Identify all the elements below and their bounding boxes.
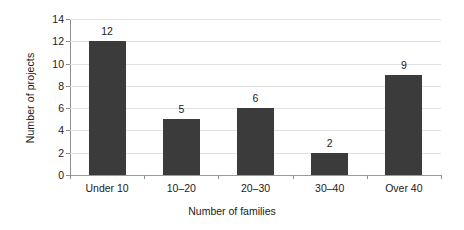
bar xyxy=(89,41,126,175)
x-axis-title: Number of families xyxy=(0,205,464,217)
x-axis-tick-mark xyxy=(218,175,219,179)
y-axis-tick-label: 8 xyxy=(40,80,64,91)
y-axis-tick-mark xyxy=(66,130,70,131)
y-axis-tick-label: 4 xyxy=(40,125,64,136)
y-axis-tick-mark xyxy=(66,41,70,42)
x-axis-tick-mark xyxy=(441,175,442,179)
y-axis-tick-mark xyxy=(66,153,70,154)
y-axis-tick-labels: 02468101214 xyxy=(40,12,64,176)
y-axis-tick-mark xyxy=(66,108,70,109)
bar xyxy=(237,108,274,175)
bar-value-label: 5 xyxy=(151,103,211,115)
x-axis-tick-mark xyxy=(144,175,145,179)
bar-value-label: 12 xyxy=(77,25,137,37)
y-axis-title: Number of projects xyxy=(22,10,38,186)
bar-chart: Number of projects 02468101214 Under 101… xyxy=(0,0,464,230)
bar xyxy=(385,75,422,175)
bar xyxy=(163,119,200,175)
y-axis-tick-label: 2 xyxy=(40,147,64,158)
x-axis-tick-mark xyxy=(293,175,294,179)
gridline xyxy=(70,19,441,20)
y-axis-tick-label: 6 xyxy=(40,103,64,114)
y-axis-tick-mark xyxy=(66,86,70,87)
gridline xyxy=(70,175,441,176)
y-axis-tick-label: 10 xyxy=(40,58,64,69)
x-axis-tick-mark xyxy=(367,175,368,179)
bar-value-label: 6 xyxy=(226,92,286,104)
bar-value-label: 9 xyxy=(374,59,434,71)
x-axis-tick-label: Over 40 xyxy=(359,182,449,194)
plot-area: 125629 xyxy=(70,19,441,175)
y-axis-tick-label: 0 xyxy=(40,170,64,181)
bar-value-label: 2 xyxy=(300,137,360,149)
y-axis-tick-label: 14 xyxy=(40,14,64,25)
gridline xyxy=(70,41,441,42)
y-axis-tick-mark xyxy=(66,64,70,65)
y-axis-tick-mark xyxy=(66,19,70,20)
x-axis-tick-mark xyxy=(70,175,71,179)
y-axis-line xyxy=(70,19,71,175)
y-axis-tick-label: 12 xyxy=(40,36,64,47)
bar xyxy=(311,153,348,175)
